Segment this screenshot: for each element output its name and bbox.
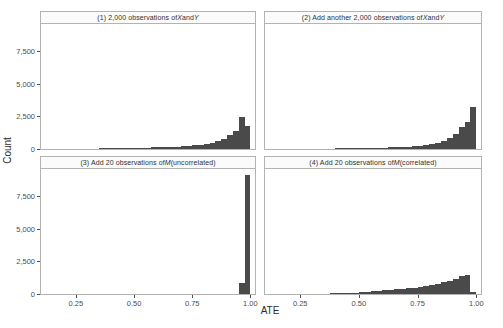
- facet-panel-4: (4) Add 20 observations of M (correlated…: [264, 156, 482, 295]
- plot-panel-panel-2: [264, 24, 482, 150]
- x-tick-mark: [476, 295, 477, 298]
- y-tick-label: 7,500: [16, 192, 35, 201]
- histogram-bar: [470, 292, 476, 294]
- x-tick-label: 0.25: [69, 299, 84, 308]
- x-tick-mark: [76, 295, 77, 298]
- plot-panel-panel-1: [40, 24, 256, 150]
- histogram-bar: [245, 126, 251, 149]
- x-tick-label: 0.75: [185, 299, 200, 308]
- plot-panel-panel-4: [264, 169, 482, 295]
- facet-title-italic: X: [177, 14, 182, 21]
- facet-panel-3: (3) Add 20 observations of M (uncorrelat…: [40, 156, 256, 295]
- histogram-facet-figure: Count ATE 02,5005,0007,50002,5005,0007,5…: [0, 0, 503, 328]
- y-tick-label: 5,000: [16, 79, 35, 88]
- y-tick-label: 2,500: [16, 112, 35, 121]
- plot-area-panel-2: [265, 24, 481, 149]
- plot-area-panel-3: [41, 169, 255, 294]
- histogram-bar: [245, 175, 251, 294]
- plot-area-panel-1: [41, 24, 255, 149]
- y-tick-label: 7,500: [16, 47, 35, 56]
- plot-area-panel-4: [265, 169, 481, 294]
- facet-title-italic: M: [165, 159, 171, 166]
- facet-panel-2: (2) Add another 2,000 observations of X …: [264, 11, 482, 150]
- facet-title-panel-3: (3) Add 20 observations of M (uncorrelat…: [40, 156, 256, 169]
- x-tick-label: 0.25: [293, 299, 308, 308]
- facet-title-italic: M: [394, 159, 400, 166]
- facet-title-panel-1: (1) 2,000 observations of X and Y: [40, 11, 256, 24]
- facet-panel-1: (1) 2,000 observations of X and Y: [40, 11, 256, 150]
- y-tick-label: 2,500: [16, 257, 35, 266]
- x-tick-label: 0.50: [127, 299, 142, 308]
- y-tick-label: 0: [31, 290, 35, 299]
- x-axis-title-label: ATE: [261, 305, 280, 316]
- facet-title-italic: X: [423, 14, 428, 21]
- x-tick-mark: [418, 295, 419, 298]
- histogram-bar: [470, 107, 476, 149]
- histogram-bar: [465, 275, 471, 294]
- facet-title-panel-2: (2) Add another 2,000 observations of X …: [264, 11, 482, 24]
- x-tick-label: 1.00: [469, 299, 484, 308]
- x-tick-label: 0.75: [410, 299, 425, 308]
- x-tick-mark: [134, 295, 135, 298]
- x-axis-title: ATE: [40, 305, 500, 316]
- x-tick-mark: [192, 295, 193, 298]
- y-axis-title: Count: [0, 0, 14, 300]
- x-tick-mark: [300, 295, 301, 298]
- x-tick-mark: [359, 295, 360, 298]
- y-axis-title-label: Count: [2, 137, 13, 164]
- y-tick-label: 0: [31, 145, 35, 154]
- facet-title-italic: Y: [194, 14, 199, 21]
- x-tick-mark: [250, 295, 251, 298]
- facet-title-panel-4: (4) Add 20 observations of M (correlated…: [264, 156, 482, 169]
- y-tick-label: 5,000: [16, 224, 35, 233]
- facet-title-italic: Y: [439, 14, 444, 21]
- plot-panel-panel-3: [40, 169, 256, 295]
- x-tick-label: 1.00: [243, 299, 258, 308]
- x-tick-label: 0.50: [352, 299, 367, 308]
